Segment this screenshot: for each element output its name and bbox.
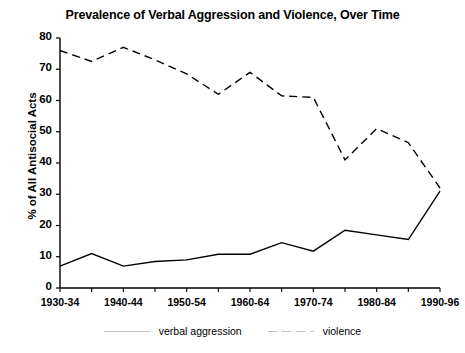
legend-item-violence: violence (268, 325, 362, 337)
chart-legend: verbal aggression violence (0, 325, 465, 337)
legend-swatch-solid-icon (104, 331, 150, 332)
legend-item-verbal-aggression: verbal aggression (104, 325, 242, 337)
chart-figure: Prevalence of Verbal Aggression and Viol… (0, 0, 465, 353)
legend-swatch-dashed-icon (268, 331, 314, 332)
legend-label-verbal-aggression: verbal aggression (159, 325, 242, 337)
series-line-verbal-aggression (60, 191, 440, 266)
plot-area (0, 0, 465, 353)
data-series-layer (60, 47, 440, 266)
legend-label-violence: violence (323, 325, 362, 337)
series-line-violence (60, 47, 440, 188)
